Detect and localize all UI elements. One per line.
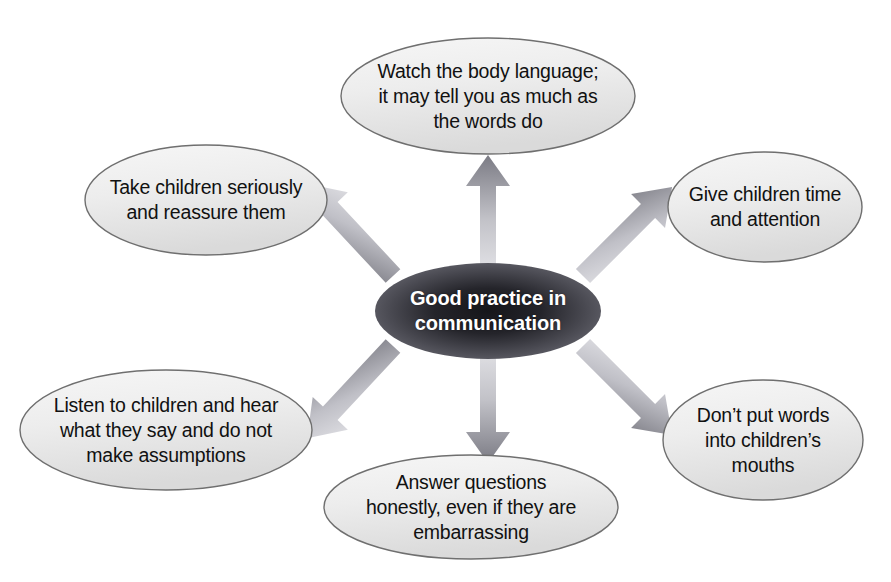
diagram-graphics	[0, 0, 891, 582]
node-ellipse-body-language[interactable]	[341, 38, 635, 154]
node-ellipse-answer-questions[interactable]	[324, 455, 618, 559]
arrow-up-right	[566, 170, 689, 293]
node-ellipse-give-time[interactable]	[668, 152, 862, 262]
node-ellipse-listen[interactable]	[20, 370, 312, 490]
arrow-up	[466, 155, 510, 272]
arrow-down	[466, 348, 510, 463]
diagram-canvas: Watch the body language; it may tell you…	[0, 0, 891, 582]
center-node-ellipse[interactable]	[375, 263, 601, 359]
node-ellipse-take-seriously[interactable]	[85, 145, 327, 255]
node-ellipse-dont-put-words[interactable]	[663, 380, 863, 500]
